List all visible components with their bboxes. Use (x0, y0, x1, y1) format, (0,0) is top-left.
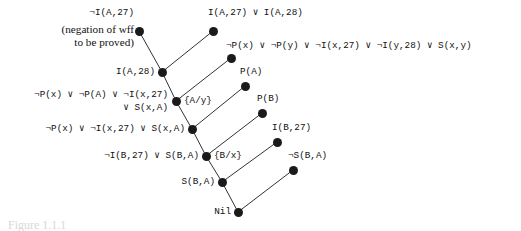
clause-node[interactable] (188, 125, 197, 134)
clause-node[interactable] (135, 27, 144, 36)
clause-node[interactable] (209, 27, 218, 36)
clause-node[interactable] (258, 109, 267, 118)
clause-label: P(B) (257, 93, 279, 106)
clause-label: ¬I(B,27) ∨ S(B,A) (104, 150, 199, 163)
derivation-edge (162, 31, 213, 72)
clause-label: I(A,28) (116, 66, 155, 79)
clause-label: S(B,A) (182, 176, 215, 189)
clause-node[interactable] (273, 138, 282, 147)
clause-node[interactable] (234, 208, 243, 217)
derivation-edge (222, 142, 277, 182)
clause-label: I(B,27) (272, 122, 311, 135)
clause-node[interactable] (241, 82, 250, 91)
clause-label: P(A) (240, 66, 262, 79)
clause-node[interactable] (289, 166, 298, 175)
substitution-label: {A/y} (184, 95, 212, 107)
clause-label: ¬P(x) ∨ ¬I(x,27) ∨ S(x,A) (45, 123, 185, 136)
clause-label: Nil (214, 206, 231, 219)
clause-node[interactable] (202, 152, 211, 161)
clause-node[interactable] (172, 97, 181, 106)
clause-node[interactable] (218, 178, 227, 187)
clause-label: I(A,27) ∨ I(A,28) (208, 7, 303, 20)
clause-node[interactable] (227, 54, 236, 63)
derivation-edge (192, 86, 245, 129)
clause-label: ¬S(B,A) (288, 150, 327, 163)
derivation-edge (238, 170, 293, 212)
clause-label: ¬P(x) ∨ ¬P(A) ∨ ¬I(x,27) ∨ S(x,A) (34, 89, 168, 114)
negation-annotation: (negation of wff to be proved) (62, 23, 135, 49)
clause-node[interactable] (158, 68, 167, 77)
figure-caption: Figure 1.1.1 (8, 218, 66, 231)
clause-label: ¬I(A,27) (89, 7, 134, 20)
substitution-label: {B/x} (214, 150, 242, 162)
clause-label: ¬P(x) ∨ ¬P(y) ∨ ¬I(x,27) ∨ ¬I(y,28) ∨ S(… (226, 40, 472, 53)
resolution-refutation-figure: ¬I(A,27)I(A,27) ∨ I(A,28)I(A,28)¬P(x) ∨ … (0, 0, 521, 231)
